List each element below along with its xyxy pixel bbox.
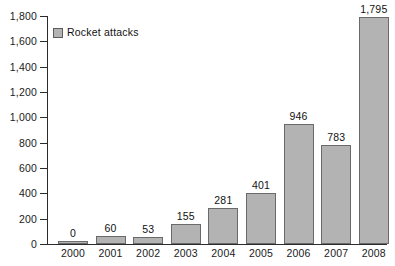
y-axis-tick — [40, 168, 47, 169]
bar-value-label: 946 — [281, 111, 317, 122]
bar-value-label: 53 — [130, 224, 166, 235]
bar-group: 281 — [205, 16, 241, 244]
x-axis-label: 2007 — [318, 247, 354, 259]
bar-value-label: 155 — [168, 211, 204, 222]
bar-value-label: 281 — [205, 195, 241, 206]
bar-group: 1,795 — [356, 16, 392, 244]
bar[interactable] — [171, 224, 201, 244]
y-axis-tick — [40, 219, 47, 220]
bar[interactable] — [284, 124, 314, 244]
bar-value-label: 1,795 — [356, 4, 392, 15]
y-axis-label: 600 — [19, 163, 37, 173]
bar-group: 946 — [281, 16, 317, 244]
y-axis-label: 1,600 — [10, 36, 37, 46]
bar-value-label: 783 — [318, 132, 354, 143]
y-axis-label: 1,000 — [10, 112, 37, 122]
y-axis-tick — [40, 117, 47, 118]
y-axis-tick — [40, 16, 47, 17]
bar[interactable] — [246, 193, 276, 244]
y-axis-label: 1,800 — [10, 11, 37, 21]
bar[interactable] — [359, 17, 389, 244]
y-axis-tick — [40, 193, 47, 194]
y-axis-tick — [40, 41, 47, 42]
bar-group: 53 — [130, 16, 166, 244]
y-axis-tick — [40, 92, 47, 93]
x-axis-label: 2008 — [356, 247, 392, 259]
y-axis-tick — [40, 67, 47, 68]
x-axis-label: 2006 — [281, 247, 317, 259]
y-axis-label: 200 — [19, 214, 37, 224]
bar[interactable] — [208, 208, 238, 244]
bar[interactable] — [96, 236, 126, 244]
caption-strip — [8, 258, 268, 264]
y-axis-tick — [40, 143, 47, 144]
bar-group: 783 — [318, 16, 354, 244]
bar-group: 0 — [55, 16, 91, 244]
y-axis-label: 1,200 — [10, 87, 37, 97]
y-axis-label: 1,400 — [10, 62, 37, 72]
y-axis-tick — [40, 244, 47, 245]
bar[interactable] — [321, 145, 351, 244]
plot-area: 060531552814019467831,795 — [48, 16, 387, 244]
bar-group: 60 — [93, 16, 129, 244]
bar-group: 155 — [168, 16, 204, 244]
bar[interactable] — [58, 241, 88, 244]
bar-value-label: 60 — [93, 223, 129, 234]
y-axis-label: 0 — [31, 239, 37, 249]
bar-group: 401 — [243, 16, 279, 244]
bar-value-label: 0 — [55, 228, 91, 239]
bar-value-label: 401 — [243, 180, 279, 191]
x-axis-line — [47, 244, 387, 245]
y-axis-label: 800 — [19, 138, 37, 148]
y-axis-label: 400 — [19, 188, 37, 198]
bar[interactable] — [133, 237, 163, 244]
bar-chart: Rocket attacks 02004006008001,0001,2001,… — [0, 0, 395, 266]
